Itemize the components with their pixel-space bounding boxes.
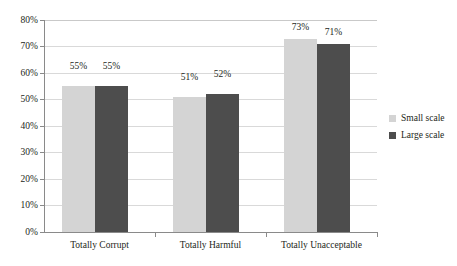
bar-large-scale-totally-corrupt: [95, 86, 128, 232]
legend-swatch-large-scale-icon: [389, 132, 396, 139]
y-tick-label-60: 60%: [2, 69, 38, 79]
bar-small-scale-totally-harmful: [173, 97, 206, 232]
data-label-small-scale-totally-unacceptable: 73%: [284, 23, 317, 33]
plot-area: [44, 20, 377, 232]
category-label-totally-corrupt: Totally Corrupt: [44, 241, 155, 251]
legend-label-small-scale: Small scale: [401, 114, 445, 124]
category-tick-2: [266, 232, 267, 237]
y-tick-label-10: 10%: [2, 201, 38, 211]
data-label-large-scale-totally-harmful: 52%: [206, 70, 239, 80]
category-label-totally-harmful: Totally Harmful: [155, 241, 266, 251]
data-label-large-scale-totally-unacceptable: 71%: [317, 28, 350, 38]
gridline-80: [44, 20, 377, 21]
legend-item-small-scale: Small scale: [389, 110, 445, 127]
legend-swatch-small-scale-icon: [389, 115, 396, 122]
y-tick-label-70: 70%: [2, 42, 38, 52]
bar-large-scale-totally-unacceptable: [317, 44, 350, 232]
chart-legend: Small scale Large scale: [389, 110, 445, 144]
bar-small-scale-totally-corrupt: [62, 86, 95, 232]
category-tick-3: [377, 232, 378, 237]
bar-chart: 80% 70% 60% 50% 40% 30% 20% 10% 0%: [0, 0, 457, 266]
legend-label-large-scale: Large scale: [401, 131, 444, 141]
bar-large-scale-totally-harmful: [206, 94, 239, 232]
bar-small-scale-totally-unacceptable: [284, 39, 317, 232]
y-tick-label-80: 80%: [2, 16, 38, 26]
y-tick-label-40: 40%: [2, 122, 38, 132]
y-tick-label-30: 30%: [2, 148, 38, 158]
y-axis-labels: 80% 70% 60% 50% 40% 30% 20% 10% 0%: [0, 0, 38, 266]
category-tick-1: [155, 232, 156, 237]
y-axis-line: [44, 20, 45, 233]
x-axis-line: [44, 232, 378, 233]
y-tick-label-50: 50%: [2, 95, 38, 105]
data-label-small-scale-totally-corrupt: 55%: [62, 62, 95, 72]
y-tick-label-20: 20%: [2, 175, 38, 185]
data-label-small-scale-totally-harmful: 51%: [173, 73, 206, 83]
legend-item-large-scale: Large scale: [389, 127, 445, 144]
y-tick-label-0: 0%: [2, 228, 38, 238]
category-label-totally-unacceptable: Totally Unacceptable: [266, 241, 377, 251]
data-label-large-scale-totally-corrupt: 55%: [95, 62, 128, 72]
